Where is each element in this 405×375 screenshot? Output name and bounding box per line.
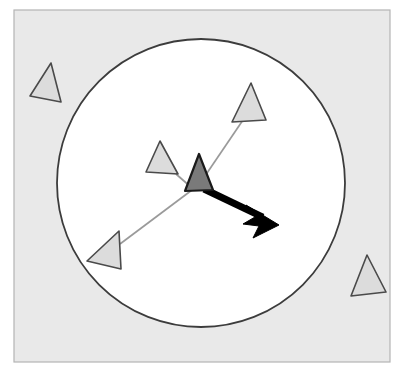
figure-root: Agent perception neighborhood A focal ag… [0, 0, 405, 375]
agent-neighborhood-diagram: Agent perception neighborhood A focal ag… [0, 0, 405, 375]
